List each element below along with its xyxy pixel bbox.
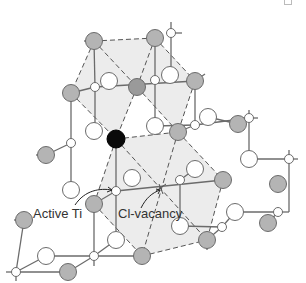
gray-atom [270,176,287,193]
white-atom [108,232,125,249]
gray-atom [38,147,55,164]
white-atom [38,248,55,265]
small-atom [91,83,100,92]
gray-atom [63,85,80,102]
active-ti-atom [107,130,125,148]
white-atom [227,204,244,221]
gray-atom [199,232,216,249]
gray-atom [230,116,247,133]
cl-vacancy-label: Cl-vacancy [118,206,183,221]
gray-atom [129,79,146,96]
small-atom [12,268,21,277]
white-atom [101,73,118,90]
white-atom [63,182,80,199]
gray-atom [215,172,232,189]
gray-atom [16,212,33,229]
gray-atom [134,248,151,265]
white-atom [124,170,141,187]
white-atom [200,109,217,126]
gray-atom [260,215,277,232]
gray-atom [187,73,204,90]
small-atom [176,176,185,185]
small-atom [67,139,76,148]
white-atom [187,161,204,178]
small-atom [218,223,227,232]
gray-atom [86,196,103,213]
crystal-lattice-diagram: Active Ti Cl-vacancy [0,0,306,283]
gray-atom [86,33,103,50]
small-atom [245,114,254,123]
active-ti-label: Active Ti [33,206,82,221]
small-atom [285,155,294,164]
small-atom [167,29,176,38]
small-atom [191,121,200,130]
white-atom [147,118,164,135]
small-atom [151,76,160,85]
small-atom [112,187,121,196]
gray-atom [170,124,187,141]
white-atom [162,67,179,84]
white-atom [241,151,258,168]
gray-atom [60,264,77,281]
small-atom [274,208,283,217]
gray-atom [147,30,164,47]
white-atom [86,123,103,140]
small-atom [90,252,99,261]
